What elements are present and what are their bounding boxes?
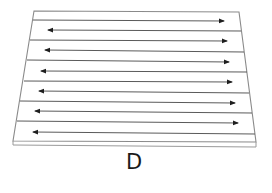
figure-label: D [0,150,270,174]
plate [13,11,256,147]
